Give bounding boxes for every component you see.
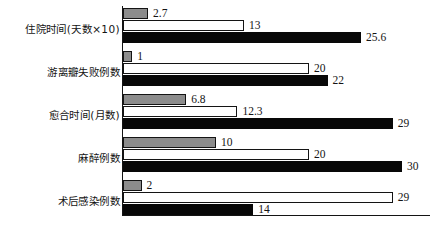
bar-value-label: 10 <box>221 135 233 149</box>
bar-value-label: 1 <box>137 49 143 63</box>
bar-row: 1 <box>123 51 432 62</box>
bar-group-3: 10 20 30 <box>123 137 432 173</box>
bar-series-1-cat-3 <box>123 137 216 148</box>
bar-value-label: 2 <box>147 178 153 192</box>
bar-row: 6.8 <box>123 94 432 105</box>
category-label-2: 愈合时间(月数) <box>2 109 120 122</box>
bar-series-3-cat-2 <box>123 118 393 129</box>
bar-row: 29 <box>123 192 432 203</box>
bar-value-label: 2.7 <box>153 6 167 20</box>
bar-value-label: 29 <box>398 190 410 204</box>
bar-group-2: 6.8 12.3 29 <box>123 94 432 130</box>
bar-group-1: 1 20 22 <box>123 51 432 87</box>
plot-area: 2.7 13 25.6 1 20 22 <box>122 6 432 220</box>
bar-series-1-cat-1 <box>123 51 132 62</box>
bar-series-3-cat-3 <box>123 161 402 172</box>
category-label-0: 住院时间(天数×10) <box>2 23 120 36</box>
bar-group-4: 2 29 14 <box>123 180 432 216</box>
bar-row: 29 <box>123 118 432 129</box>
bar-series-2-cat-3 <box>123 149 309 160</box>
bar-series-3-cat-0 <box>123 32 361 43</box>
bar-row: 12.3 <box>123 106 432 117</box>
bar-value-label: 14 <box>258 202 270 216</box>
bar-series-1-cat-2 <box>123 94 186 105</box>
bar-group-0: 2.7 13 25.6 <box>123 8 432 44</box>
bar-series-2-cat-0 <box>123 20 244 31</box>
bar-value-label: 20 <box>314 61 326 75</box>
bar-row: 20 <box>123 63 432 74</box>
bar-value-label: 13 <box>249 18 261 32</box>
bar-row: 2.7 <box>123 8 432 19</box>
category-label-4: 术后感染例数 <box>2 195 120 208</box>
bar-row: 25.6 <box>123 32 432 43</box>
bar-row: 2 <box>123 180 432 191</box>
bar-series-2-cat-1 <box>123 63 309 74</box>
bar-row: 10 <box>123 137 432 148</box>
bar-value-label: 25.6 <box>366 30 386 44</box>
category-label-1: 游离瓣失败例数 <box>2 66 120 79</box>
category-axis-labels: 住院时间(天数×10) 游离瓣失败例数 愈合时间(月数) 麻醉例数 术后感染例数 <box>0 6 120 220</box>
bar-value-label: 6.8 <box>191 92 205 106</box>
bar-row: 20 <box>123 149 432 160</box>
bar-series-1-cat-4 <box>123 180 142 191</box>
bar-value-label: 20 <box>314 147 326 161</box>
bar-series-2-cat-2 <box>123 106 237 117</box>
bar-series-3-cat-4 <box>123 204 253 215</box>
bar-series-1-cat-0 <box>123 8 148 19</box>
bar-row: 22 <box>123 75 432 86</box>
category-label-3: 麻醉例数 <box>2 152 120 165</box>
bar-value-label: 22 <box>333 73 345 87</box>
bar-value-label: 29 <box>398 116 410 130</box>
bar-value-label: 30 <box>407 159 419 173</box>
bar-value-label: 12.3 <box>242 104 262 118</box>
bar-series-3-cat-1 <box>123 75 328 86</box>
bar-row: 30 <box>123 161 432 172</box>
bar-row: 14 <box>123 204 432 215</box>
bar-chart: 住院时间(天数×10) 游离瓣失败例数 愈合时间(月数) 麻醉例数 术后感染例数… <box>0 0 446 237</box>
